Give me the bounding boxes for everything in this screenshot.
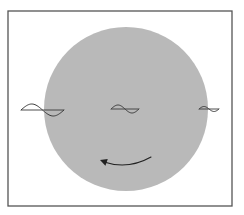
rotating-disk-diagram <box>0 0 244 215</box>
